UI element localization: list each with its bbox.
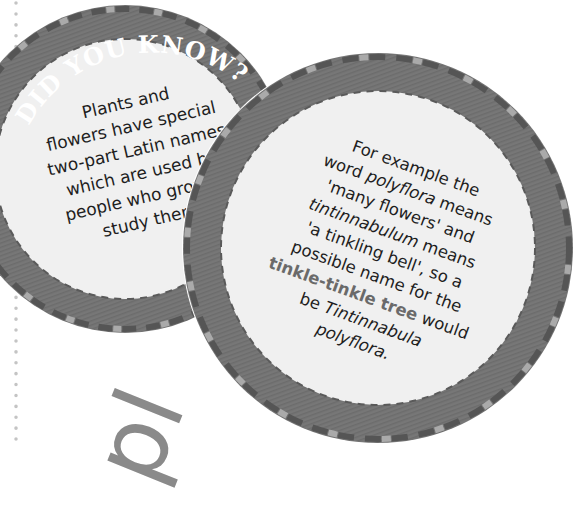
svg-text:pl: pl: [70, 374, 207, 497]
rotated-decorative-letters: pl: [70, 374, 207, 497]
example-badge: For example the word polyflora means 'ma…: [182, 52, 574, 444]
page-canvas: pl DID YOU KNOW? Plants and flowers have…: [0, 0, 582, 512]
